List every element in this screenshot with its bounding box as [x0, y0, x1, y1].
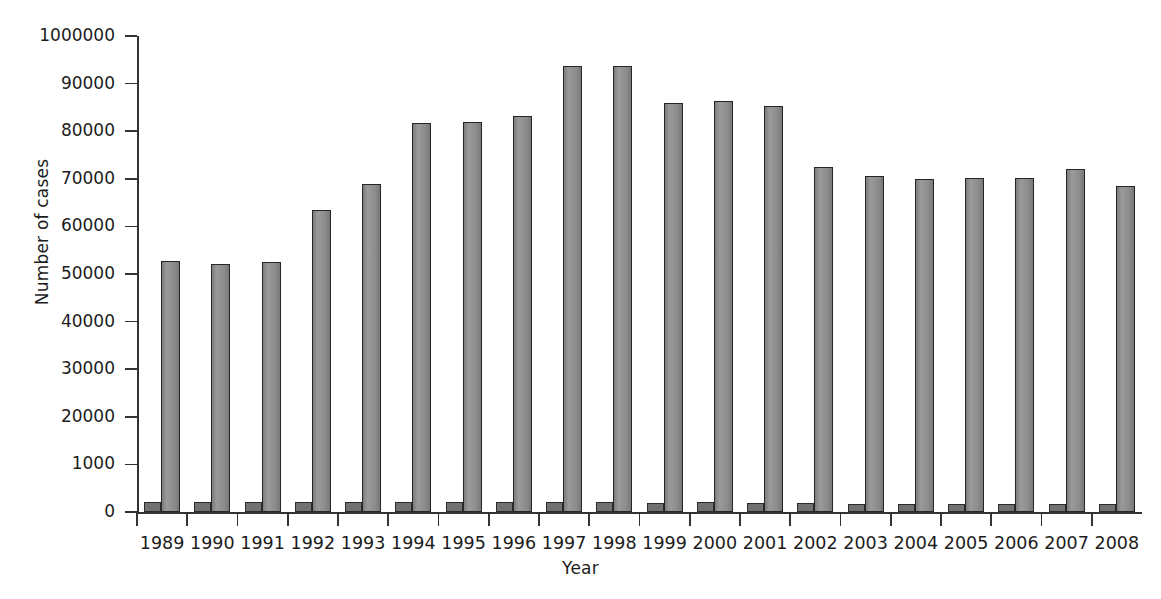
x-tick-1996 [488, 512, 490, 526]
y-tick-label-6: 60000 [0, 215, 115, 235]
y-tick-9 [125, 83, 137, 85]
x-axis-title: Year [0, 558, 1161, 578]
x-tick-2003 [840, 512, 842, 526]
x-tick-2007 [1041, 512, 1043, 526]
y-tick-2 [125, 416, 137, 418]
y-axis-line [137, 36, 139, 513]
bar-2004 [915, 179, 934, 512]
x-tick-1992 [287, 512, 289, 526]
x-tick-1993 [337, 512, 339, 526]
baseline-stub-1999 [647, 503, 664, 512]
baseline-stub-1990 [194, 502, 211, 512]
baseline-stub-2000 [697, 502, 714, 512]
bar-2006 [1015, 178, 1034, 512]
bar-chart: Number of cases Year 0100020000300004000… [0, 0, 1161, 599]
x-tick-1994 [387, 512, 389, 526]
bar-1993 [362, 184, 381, 512]
baseline-stub-1997 [546, 502, 563, 512]
y-tick-4 [125, 321, 137, 323]
bar-2000 [714, 101, 733, 512]
x-tick-2006 [990, 512, 992, 526]
baseline-stub-1995 [446, 502, 463, 512]
bar-1989 [161, 261, 180, 512]
baseline-stub-2008 [1099, 504, 1116, 512]
bar-1992 [312, 210, 331, 512]
y-tick-label-3: 30000 [0, 358, 115, 378]
y-tick-10 [125, 35, 137, 37]
baseline-stub-2006 [998, 504, 1015, 512]
x-tick-1995 [438, 512, 440, 526]
y-tick-5 [125, 273, 137, 275]
y-tick-label-7: 70000 [0, 168, 115, 188]
bar-1994 [412, 123, 431, 512]
baseline-stub-2004 [898, 504, 915, 512]
y-tick-label-0: 0 [0, 501, 115, 521]
y-tick-label-1: 1000 [0, 453, 115, 473]
bar-1995 [463, 122, 482, 512]
bar-2007 [1066, 169, 1085, 512]
x-tick-2004 [890, 512, 892, 526]
bar-1990 [211, 264, 230, 512]
baseline-stub-1993 [345, 502, 362, 512]
y-tick-1 [125, 464, 137, 466]
baseline-stub-2002 [797, 503, 814, 512]
y-tick-6 [125, 226, 137, 228]
bar-2003 [865, 176, 884, 512]
y-tick-8 [125, 130, 137, 132]
y-tick-7 [125, 178, 137, 180]
bar-1999 [664, 103, 683, 512]
bar-1996 [513, 116, 532, 512]
y-tick-label-4: 40000 [0, 311, 115, 331]
bar-1997 [563, 66, 582, 512]
baseline-stub-1989 [144, 502, 161, 512]
y-tick-label-2: 20000 [0, 406, 115, 426]
baseline-stub-2007 [1049, 504, 1066, 512]
baseline-stub-2001 [747, 503, 764, 512]
baseline-stub-1996 [496, 502, 513, 512]
bar-2001 [764, 106, 783, 512]
bar-1998 [613, 66, 632, 512]
x-tick-label-2008: 2008 [1084, 533, 1150, 553]
x-tick-1989 [136, 512, 138, 526]
baseline-stub-2003 [848, 504, 865, 512]
x-tick-1997 [538, 512, 540, 526]
baseline-stub-2005 [948, 504, 965, 512]
bar-2008 [1116, 186, 1135, 512]
bar-2005 [965, 178, 984, 512]
baseline-stub-1994 [395, 502, 412, 512]
x-tick-2002 [789, 512, 791, 526]
x-tick-1990 [186, 512, 188, 526]
y-tick-label-8: 80000 [0, 120, 115, 140]
x-tick-2008 [1091, 512, 1093, 526]
y-tick-3 [125, 368, 137, 370]
x-tick-2005 [940, 512, 942, 526]
y-tick-0 [125, 511, 137, 513]
x-tick-2000 [689, 512, 691, 526]
bar-1991 [262, 262, 281, 512]
y-tick-label-5: 50000 [0, 263, 115, 283]
x-tick-1999 [639, 512, 641, 526]
y-tick-label-10: 1000000 [0, 25, 115, 45]
baseline-stub-1991 [245, 502, 262, 512]
y-tick-label-9: 90000 [0, 73, 115, 93]
plot-area: 0100020000300004000050000600007000080000… [137, 36, 1142, 512]
baseline-stub-1998 [596, 502, 613, 512]
x-tick-2001 [739, 512, 741, 526]
baseline-stub-1992 [295, 502, 312, 512]
x-tick-1991 [237, 512, 239, 526]
bar-2002 [814, 167, 833, 512]
x-tick-1998 [588, 512, 590, 526]
